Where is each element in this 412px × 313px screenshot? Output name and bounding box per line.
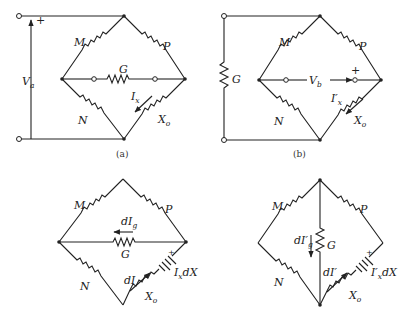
polarity-d: + — [366, 248, 373, 257]
emf-label-d: I′xdX — [370, 266, 398, 281]
caption-b: (b) — [293, 149, 306, 159]
label-n-c: N — [79, 280, 90, 293]
label-m-d: M — [271, 200, 284, 213]
label-g-d: G — [327, 239, 336, 252]
label-n-d: N — [273, 276, 284, 289]
label-n-a: N — [77, 114, 88, 127]
resistor-m-d — [258, 180, 320, 243]
label-xo-a: Xo — [157, 113, 171, 128]
current-g-label-d: dI′g — [294, 234, 313, 249]
label-g-a: G — [119, 63, 128, 76]
resistor-g-external-b — [220, 18, 228, 138]
current-x-label-d: dI′ — [323, 266, 337, 279]
label-xo-d: Xo — [348, 289, 362, 304]
label-n-b: N — [273, 115, 284, 128]
label-xo-c: Xo — [144, 290, 158, 305]
label-p-a: P — [162, 40, 171, 53]
bridge-circuits-figure: + Va M P G N Ix Xo (a) — [0, 0, 412, 313]
resistor-g-c — [59, 238, 186, 246]
current-g-label-c: dIg — [121, 215, 137, 230]
polarity-b: + — [351, 64, 360, 77]
panel-d: M P dI′g G N dI′ + I′xdX Xo — [258, 178, 398, 307]
label-xo-b: Xo — [353, 114, 367, 129]
label-m-b: M — [278, 36, 291, 49]
current-label-a: Ix — [130, 90, 140, 105]
label-p-c: P — [164, 203, 173, 216]
panel-a: + Va M P G N Ix Xo (a) — [17, 14, 187, 160]
label-m-c: M — [73, 199, 86, 212]
current-x-label-c: dI — [124, 274, 136, 287]
label-p-b: P — [358, 40, 367, 53]
label-g-b: G — [232, 73, 241, 86]
caption-a: (a) — [116, 149, 128, 159]
resistor-p-d — [320, 180, 383, 243]
resistor-n-b — [259, 80, 320, 140]
terminal-bottom-a — [17, 137, 22, 142]
label-g-c: G — [121, 248, 130, 261]
resistor-n-a — [62, 79, 124, 139]
resistor-m-c — [59, 179, 123, 242]
panel-c: M P dIg G N dI + IxdX Xo — [57, 179, 198, 305]
current-label-b: I′x — [330, 92, 343, 107]
polarity-a: + — [36, 14, 45, 27]
label-p-d: P — [359, 203, 368, 216]
label-m-a: M — [73, 36, 86, 49]
polarity-c: + — [168, 248, 175, 257]
resistor-xo-a — [124, 79, 185, 139]
resistor-n-c — [59, 242, 123, 305]
resistor-m-a — [62, 16, 124, 79]
resistor-g-d — [316, 180, 324, 305]
terminal-top-a — [17, 14, 22, 19]
voltage-label-a: Va — [22, 75, 34, 90]
emf-label-c: IxdX — [173, 266, 199, 281]
voltage-label-b: Vb — [309, 74, 322, 89]
resistor-p-a — [124, 16, 185, 79]
panel-b: G M P Vb + N I′x Xo (b) — [220, 14, 383, 160]
